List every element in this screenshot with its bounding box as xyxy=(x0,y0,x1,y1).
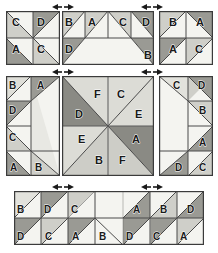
patch-label: C xyxy=(119,16,127,28)
patch-label: C xyxy=(9,132,16,143)
patch-label: A xyxy=(88,16,96,28)
patch-label: A xyxy=(37,80,44,91)
patch-label: D xyxy=(142,16,150,28)
patch-label: C xyxy=(153,231,160,242)
patch-label: A xyxy=(72,231,79,242)
patch-label: B xyxy=(160,204,167,215)
patch-label: A xyxy=(12,43,20,55)
patch-label: D xyxy=(17,231,24,242)
patch-label: D xyxy=(126,231,133,242)
alignment-marker-bottom-left xyxy=(52,183,74,191)
alignment-marker-middle-right xyxy=(141,68,163,76)
quilt-diagram-canvas: C D A C xyxy=(0,0,218,253)
patch-label: B xyxy=(144,49,152,61)
patch-label: B xyxy=(95,154,103,166)
patch-label: B xyxy=(199,105,206,116)
patch-label: D xyxy=(75,108,83,120)
patch-label: B xyxy=(9,80,16,91)
patch-label: D xyxy=(198,80,205,91)
panel-bottom-border-unit: B D C A B D D C A B D C A B xyxy=(14,191,204,245)
patch-label: A xyxy=(180,231,187,242)
patch-label: B xyxy=(17,204,24,215)
patch-label: C xyxy=(117,88,125,100)
patch-label: A xyxy=(196,16,204,28)
patch-label: B xyxy=(99,231,106,242)
patch-label: D xyxy=(9,105,16,116)
patch-label: A xyxy=(199,137,206,148)
patch-label: C xyxy=(12,16,20,28)
patch-label: F xyxy=(94,88,101,100)
patch-label: A xyxy=(133,204,140,215)
patch-label: D xyxy=(65,43,73,55)
patch-label: E xyxy=(78,133,85,145)
patch-label: B xyxy=(169,16,177,28)
alignment-marker-middle-left xyxy=(52,68,74,76)
patch-label: C xyxy=(195,43,203,55)
patch-label: D xyxy=(37,16,45,28)
patch-label: D xyxy=(175,162,182,173)
patch-label: B xyxy=(65,16,73,28)
patch-label: D xyxy=(187,204,194,215)
patch-label: E xyxy=(135,108,142,120)
patch-label: A xyxy=(10,162,17,173)
patch-label: A xyxy=(132,133,140,145)
panel-middle-right-side-unit: C D B A D C xyxy=(159,76,213,176)
alignment-marker-top-right xyxy=(141,3,163,11)
patch-label: C xyxy=(37,43,45,55)
panel-top-left-four-patch: C D A C xyxy=(6,11,60,65)
patch-label: A xyxy=(169,43,177,55)
panel-top-right-four-patch: B A A C xyxy=(159,11,213,65)
alignment-marker-top-left xyxy=(52,3,74,11)
patch-label: B xyxy=(35,162,42,173)
alignment-marker-bottom-right xyxy=(141,183,163,191)
patch-label: C xyxy=(45,231,52,242)
panel-middle-left-side-unit: B A D C A B xyxy=(6,76,60,176)
patch-label: C xyxy=(173,80,180,91)
patch-label: D xyxy=(44,204,51,215)
patch-label: C xyxy=(71,204,78,215)
panel-center-pinwheel-star: F C D E E A B F xyxy=(62,76,154,176)
patch-label: C xyxy=(199,162,206,173)
patch-label: F xyxy=(119,154,126,166)
panel-top-center-border-unit: B A C D D B xyxy=(62,11,154,65)
